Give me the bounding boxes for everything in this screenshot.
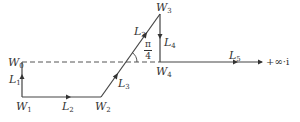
label-W2: W2 [95, 101, 111, 114]
label-W0: W0 [8, 57, 24, 70]
contour-diagram: W0 W1 W2 W3 W4 L1 L2 L3 L3 L4 L5 π 4 +∞·… [0, 0, 300, 122]
angle-arc [132, 52, 137, 62]
label-W4: W4 [156, 66, 172, 79]
label-L3-upper: L3 [134, 26, 146, 39]
endpoint-label: +∞·i [266, 57, 289, 67]
label-L4: L4 [164, 37, 176, 50]
label-W3: W3 [156, 2, 172, 15]
angle-denominator: 4 [145, 52, 151, 61]
label-W1: W1 [16, 101, 32, 114]
arrow-L4-icon [158, 34, 163, 39]
label-L5: L5 [229, 50, 241, 63]
label-L1: L1 [9, 74, 21, 87]
angle-numerator: π [145, 40, 151, 49]
arrow-L5-end-icon [258, 60, 263, 65]
label-L3-lower: L3 [118, 78, 130, 91]
label-L2: L2 [62, 101, 74, 114]
angle-label: π 4 [144, 40, 152, 61]
contour-lines [0, 0, 300, 122]
arrow-L2-icon [66, 95, 71, 100]
